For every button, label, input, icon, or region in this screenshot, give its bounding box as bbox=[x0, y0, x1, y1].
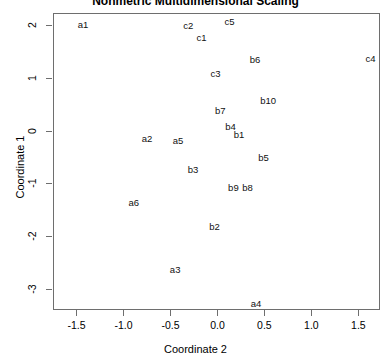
x-tick-label: 0.0 bbox=[197, 320, 237, 331]
x-tick-mark bbox=[76, 310, 77, 316]
x-tick-mark bbox=[311, 310, 312, 316]
x-tick-mark bbox=[217, 310, 218, 316]
data-point-label: c3 bbox=[211, 69, 221, 79]
y-tick-mark bbox=[46, 236, 52, 237]
x-tick-label: 0.5 bbox=[244, 320, 284, 331]
y-tick-label: -1 bbox=[27, 173, 38, 193]
data-point-label: b6 bbox=[250, 56, 261, 66]
y-tick-mark bbox=[46, 25, 52, 26]
data-point-label: a6 bbox=[129, 199, 140, 209]
data-point-label: b3 bbox=[188, 165, 199, 175]
y-tick-mark bbox=[46, 289, 52, 290]
x-tick-label: 1.5 bbox=[338, 320, 378, 331]
y-tick-mark bbox=[46, 78, 52, 79]
data-point-label: a2 bbox=[142, 134, 153, 144]
data-point-label: c5 bbox=[225, 17, 235, 27]
data-point-label: b2 bbox=[209, 222, 220, 232]
data-point-label: a3 bbox=[170, 266, 181, 276]
y-tick-label: 2 bbox=[27, 15, 38, 35]
y-tick-label: 1 bbox=[27, 68, 38, 88]
y-tick-mark bbox=[46, 183, 52, 184]
x-tick-label: -1.5 bbox=[56, 320, 96, 331]
x-tick-label: -0.5 bbox=[150, 320, 190, 331]
scatter-plot-figure: Nonmetric Multidimensional Scaling a1c2c… bbox=[0, 0, 391, 362]
x-tick-mark bbox=[123, 310, 124, 316]
y-tick-mark bbox=[46, 131, 52, 132]
x-tick-label: -1.0 bbox=[103, 320, 143, 331]
data-point-label: c1 bbox=[196, 34, 206, 44]
y-tick-label: -3 bbox=[27, 279, 38, 299]
x-tick-mark bbox=[264, 310, 265, 316]
plot-area: a1c2c5c1b6c4c3b10b7b4b1a2a5b5b3b9b8a6b2a… bbox=[53, 13, 380, 310]
data-point-label: b9 bbox=[228, 183, 239, 193]
data-point-label: b1 bbox=[234, 130, 245, 140]
data-point-label: a5 bbox=[173, 136, 184, 146]
chart-title: Nonmetric Multidimensional Scaling bbox=[0, 0, 391, 8]
data-point-label: b5 bbox=[258, 153, 269, 163]
data-point-label: a4 bbox=[251, 299, 262, 309]
x-tick-label: 1.0 bbox=[291, 320, 331, 331]
data-point-label: a1 bbox=[78, 20, 89, 30]
x-tick-mark bbox=[170, 310, 171, 316]
data-point-label: b10 bbox=[260, 96, 276, 106]
data-point-label: b8 bbox=[242, 183, 253, 193]
data-point-label: c4 bbox=[366, 55, 376, 65]
x-tick-mark bbox=[358, 310, 359, 316]
x-axis-title: Coordinate 2 bbox=[0, 343, 391, 355]
y-axis-title: Coordinate 1 bbox=[14, 119, 26, 215]
y-tick-label: 0 bbox=[27, 121, 38, 141]
y-tick-label: -2 bbox=[27, 226, 38, 246]
data-point-label: b7 bbox=[215, 106, 226, 116]
data-point-label: c2 bbox=[183, 21, 193, 31]
